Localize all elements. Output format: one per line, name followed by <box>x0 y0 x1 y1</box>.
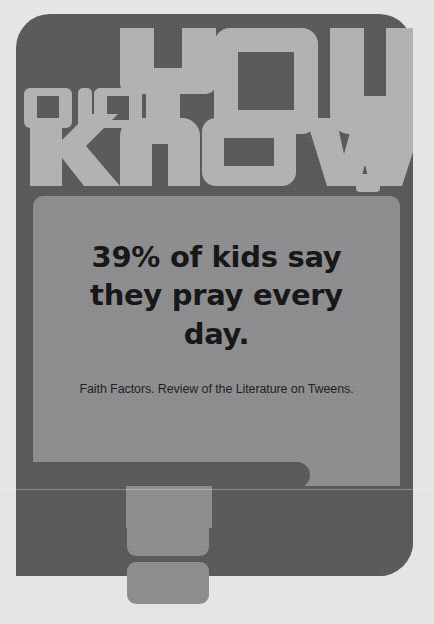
decorative-notch <box>126 486 212 528</box>
decorative-tab <box>127 562 209 604</box>
source-citation: Faith Factors. Review of the Literature … <box>33 382 400 396</box>
decorative-tab-upper <box>127 524 209 556</box>
did-you-know-logo <box>16 14 413 196</box>
content-panel: 39% of kids say they pray every day. Fai… <box>33 196 400 466</box>
did-you-know-poster: 39% of kids say they pray every day. Fai… <box>0 0 434 624</box>
logo-graphic <box>16 14 413 196</box>
decorative-bar <box>16 462 310 488</box>
headline-text: 39% of kids say they pray every day. <box>33 238 400 353</box>
decorative-block-right <box>212 486 413 576</box>
